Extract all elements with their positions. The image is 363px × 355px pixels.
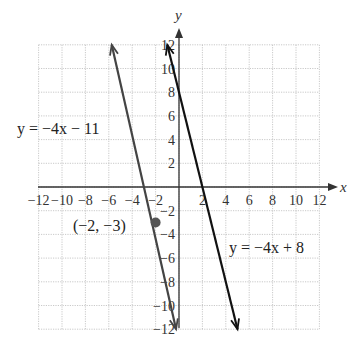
y-tick-label: 8 — [168, 85, 175, 100]
y-tick-label: −2 — [160, 204, 175, 219]
highlighted-point — [151, 218, 161, 228]
y-tick-label: 6 — [168, 109, 175, 124]
x-tick-label: 4 — [222, 193, 229, 208]
y-tick-label: 4 — [168, 133, 175, 148]
x-tick-label: −12 — [28, 193, 50, 208]
equation-label-1: y = −4x − 11 — [17, 120, 99, 138]
y-tick-label: 2 — [168, 156, 175, 171]
x-tick-label: −6 — [101, 193, 116, 208]
x-axis-label: x — [339, 179, 347, 195]
y-tick-label: −12 — [153, 322, 175, 337]
axes: x y — [38, 7, 347, 328]
x-tick-label: −8 — [78, 193, 93, 208]
x-tick-label: 6 — [246, 193, 253, 208]
x-axis-arrow-icon — [328, 183, 338, 191]
x-tick-label: −10 — [51, 193, 73, 208]
x-tick-label: 12 — [312, 193, 326, 208]
y-axis-label: y — [173, 7, 182, 23]
point-label: (−2, −3) — [73, 217, 126, 235]
x-tick-label: 8 — [269, 193, 276, 208]
x-tick-label: 10 — [289, 193, 303, 208]
plot-points — [151, 218, 161, 228]
coordinate-plot: x y −12−10−8−6−4−22468101212108642−2−4−6… — [0, 0, 363, 355]
y-axis-arrow-icon — [175, 28, 183, 38]
x-tick-label: −4 — [125, 193, 140, 208]
equation-label-2: y = −4x + 8 — [229, 239, 304, 257]
y-tick-label: −4 — [160, 227, 175, 242]
